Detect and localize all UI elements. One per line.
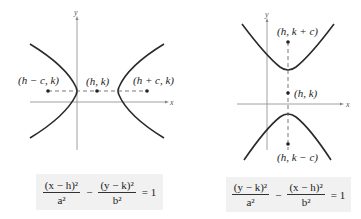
right-center-label: (h, k) [294, 87, 318, 100]
right-eq-term2: (x − h)² b² [287, 181, 324, 208]
left-eq-term2-numerator: (y − k)² [98, 179, 135, 193]
left-eq-term1-denominator: a² [57, 193, 65, 206]
left-eq-term1: (x − h)² a² [43, 179, 80, 206]
upper-focus-point [286, 40, 290, 44]
left-x-axis-arrow-icon [165, 101, 169, 104]
left-center-point [95, 89, 99, 93]
left-eq-term2-denominator: b² [113, 193, 122, 206]
right-eq-term2-numerator: (x − h)² [287, 181, 324, 195]
right-focus-label: (h + c, k) [133, 74, 174, 87]
left-x-axis-label: x [169, 98, 174, 107]
lower-focus-label: (h, k − c) [277, 151, 318, 164]
right-graph: y x (h, k + c) (h, k) (h, k − c) [237, 10, 350, 164]
right-center-point [286, 91, 290, 95]
left-graph: y x (h − c, k) (h, k) (h + c, k) [18, 8, 174, 150]
upper-focus-label: (h, k + c) [277, 25, 318, 38]
left-eq-term2: (y − k)² b² [98, 179, 135, 206]
right-x-axis-arrow-icon [340, 103, 344, 106]
lower-focus-point [286, 142, 290, 146]
left-eq-rhs: = 1 [142, 186, 156, 198]
right-eq-term1-numerator: (y − k)² [232, 181, 269, 195]
right-eq-term1: (y − k)² a² [232, 181, 269, 208]
left-focus-label: (h − c, k) [18, 74, 59, 87]
right-x-axis-label: x [345, 100, 350, 109]
right-y-axis-label: y [264, 10, 269, 19]
right-equation: (y − k)² a² − (x − h)² b² = 1 [226, 177, 351, 212]
left-equation: (x − h)² a² − (y − k)² b² = 1 [36, 174, 163, 210]
left-eq-minus: − [86, 186, 92, 198]
left-eq-term1-numerator: (x − h)² [43, 179, 80, 193]
right-eq-minus: − [275, 189, 281, 201]
right-eq-term2-denominator: b² [302, 195, 311, 208]
left-center-label: (h, k) [86, 75, 110, 88]
right-focus-point [145, 89, 149, 93]
right-eq-term1-denominator: a² [246, 195, 254, 208]
left-focus-point [46, 89, 50, 93]
right-eq-rhs: = 1 [331, 189, 345, 201]
left-y-axis-label: y [73, 8, 78, 17]
